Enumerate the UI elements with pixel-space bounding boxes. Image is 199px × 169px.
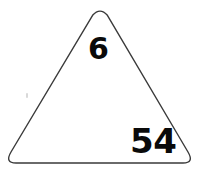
triangle-bottom-right-number: 54 bbox=[130, 124, 176, 158]
triangle-top-number: 6 bbox=[88, 34, 109, 64]
figure-canvas: 6 54 bbox=[0, 0, 199, 169]
scan-speck-artifact bbox=[26, 93, 28, 98]
